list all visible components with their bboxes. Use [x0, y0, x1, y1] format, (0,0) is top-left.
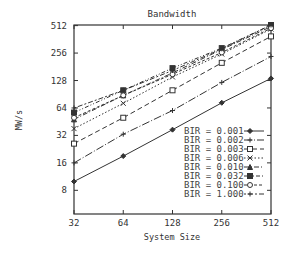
x-marker — [121, 101, 126, 106]
y-tick-label: 32 — [56, 130, 67, 140]
circle-marker — [121, 93, 126, 98]
plus-marker — [121, 132, 126, 137]
legend: BIR = 0.001BIR = 0.002BIR = 0.003BIR = 0… — [184, 126, 264, 199]
series-line — [74, 29, 271, 129]
legend-label: BIR = 1.000 — [184, 189, 244, 199]
circle-marker — [248, 183, 253, 188]
y-tick-label: 128 — [51, 76, 67, 86]
square-marker — [170, 88, 175, 93]
plus-marker — [72, 160, 77, 165]
x-axis-label: System Size — [144, 232, 200, 242]
y-tick-label: 256 — [51, 48, 67, 58]
y-tick-label: 64 — [56, 103, 67, 113]
y-tick-label: 8 — [62, 185, 67, 195]
plus-marker — [269, 54, 274, 59]
chart-title: Bandwidth — [148, 9, 197, 19]
x-tick-label: 32 — [69, 218, 80, 228]
plus-marker — [219, 80, 224, 85]
square-marker — [72, 141, 77, 146]
y-tick-label: 16 — [56, 158, 67, 168]
square-marker — [248, 147, 253, 152]
y-axis-label: MW/s — [14, 110, 24, 130]
y-tick-label: 512 — [51, 21, 67, 31]
diamond-marker — [121, 154, 126, 159]
diamond-marker — [219, 100, 224, 105]
x-tick-label: 512 — [263, 218, 279, 228]
plus-marker — [248, 138, 253, 143]
x-tick-label: 128 — [164, 218, 180, 228]
bandwidth-chart: Bandwidth System Size MW/s 3264128256512… — [0, 0, 294, 254]
x-tick-label: 256 — [214, 218, 230, 228]
x-tick-label: 64 — [118, 218, 129, 228]
square-marker — [269, 34, 274, 39]
filled-square-marker — [248, 174, 253, 179]
circle-marker — [72, 115, 77, 120]
plus-marker — [170, 108, 175, 113]
plus-marker — [248, 192, 253, 197]
diamond-marker — [170, 127, 175, 132]
square-marker — [219, 60, 224, 65]
filled-square-marker — [72, 110, 77, 115]
triangle-marker — [248, 165, 253, 170]
diamond-marker — [72, 179, 77, 184]
diamond-marker — [248, 129, 253, 134]
square-marker — [121, 115, 126, 120]
